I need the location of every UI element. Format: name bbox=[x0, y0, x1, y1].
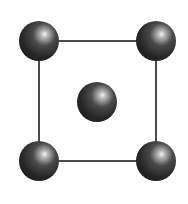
atom-center bbox=[77, 82, 117, 122]
lattice-diagram bbox=[0, 0, 188, 204]
unit-cell-svg bbox=[0, 0, 188, 204]
atom-bottom-left bbox=[19, 141, 59, 181]
atom-top-left bbox=[19, 21, 59, 61]
atom-bottom-right bbox=[136, 141, 176, 181]
atom-top-right bbox=[136, 21, 176, 61]
atoms-group bbox=[19, 21, 176, 181]
